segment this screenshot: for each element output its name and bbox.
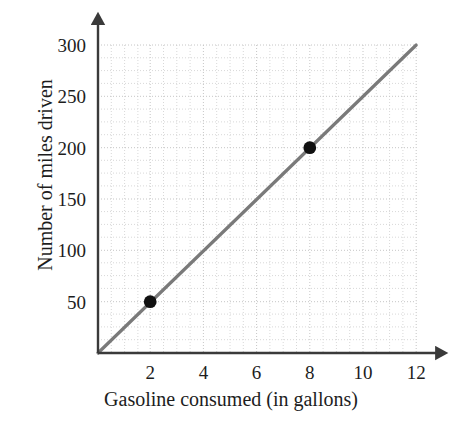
- x-tick-label: 6: [252, 363, 262, 382]
- x-tick-label: 4: [199, 363, 209, 382]
- x-tick-label: 8: [305, 363, 315, 382]
- x-tick-label: 10: [354, 363, 373, 382]
- data-point: [303, 141, 316, 154]
- y-axis-title: Number of miles driven: [30, 5, 60, 345]
- chart-figure: 300 250 200 150 100 50 2 4 6 8 10 12 Gas…: [0, 0, 462, 424]
- plot-area: [0, 0, 462, 424]
- x-tick-label: 12: [407, 363, 426, 382]
- x-tick-label: 2: [145, 363, 155, 382]
- x-axis-title: Gasoline consumed (in gallons): [0, 388, 462, 411]
- data-point: [144, 295, 157, 308]
